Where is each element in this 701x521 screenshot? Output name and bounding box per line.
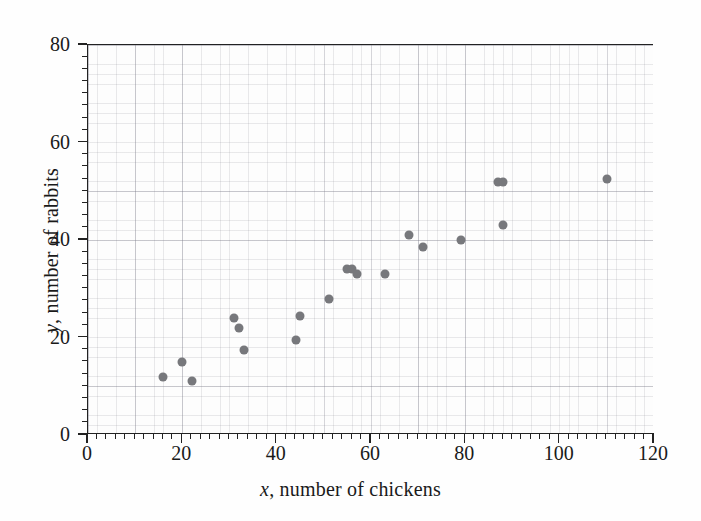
x-tick-label: 20 [171,443,191,463]
x-minor-tick [454,434,455,439]
y-minor-tick [82,214,87,215]
x-minor-tick [200,434,201,439]
x-minor-tick [96,434,97,439]
x-tick-label: 80 [454,443,474,463]
x-minor-tick [351,434,352,439]
x-minor-tick [417,434,418,439]
x-minor-tick [596,434,597,439]
data-point [352,270,361,279]
data-point [499,221,508,230]
y-minor-tick [82,104,87,105]
y-minor-tick [82,190,87,191]
x-tick-label: 60 [360,443,380,463]
x-minor-tick [502,434,503,439]
y-minor-tick [82,153,87,154]
x-minor-tick [530,434,531,439]
x-minor-tick [162,434,163,439]
x-minor-tick [605,434,606,439]
x-minor-tick [492,434,493,439]
y-axis-title: y, number of rabbits [40,96,63,406]
x-minor-tick [643,434,644,439]
x-minor-tick [634,434,635,439]
y-minor-tick [82,226,87,227]
data-point [456,236,465,245]
y-minor-tick [82,178,87,179]
y-tick-label: 0 [60,424,70,444]
y-minor-tick [82,251,87,252]
x-minor-tick [360,434,361,439]
x-minor-tick [105,434,106,439]
data-point [404,231,413,240]
x-minor-tick [153,434,154,439]
x-minor-tick [388,434,389,439]
y-major-tick [78,43,87,44]
y-minor-tick [82,165,87,166]
y-major-tick [78,336,87,337]
x-axis-title-text: , number of chickens [269,478,441,500]
y-minor-tick [82,397,87,398]
x-minor-tick [615,434,616,439]
x-tick-label: 120 [638,443,668,463]
data-point [499,177,508,186]
x-minor-tick [341,434,342,439]
y-minor-tick [82,348,87,349]
data-point [234,323,243,332]
minor-gridlines [88,45,653,434]
x-minor-tick [577,434,578,439]
x-minor-tick [407,434,408,439]
data-point [291,335,300,344]
x-minor-tick [549,434,550,439]
data-point [381,270,390,279]
y-axis-title-text: , number of rabbits [40,168,62,324]
x-minor-tick [624,434,625,439]
data-point [159,372,168,381]
y-minor-tick [82,385,87,386]
y-minor-tick [82,312,87,313]
scatter-plot-figure: 020406080100120 020406080 x, number of c… [0,0,701,521]
x-axis-title-symbol: x [260,478,269,500]
y-tick-label: 80 [50,34,70,54]
x-minor-tick [313,434,314,439]
y-minor-tick [82,324,87,325]
y-minor-tick [82,263,87,264]
data-point [324,294,333,303]
y-minor-tick [82,299,87,300]
y-major-tick [78,141,87,142]
x-axis-title: x, number of chickens [0,478,701,501]
y-minor-tick [82,129,87,130]
x-minor-tick [134,434,135,439]
x-minor-tick [247,434,248,439]
y-axis-title-symbol: y [40,324,62,333]
x-minor-tick [426,434,427,439]
x-minor-tick [115,434,116,439]
x-minor-tick [209,434,210,439]
y-minor-tick [82,80,87,81]
x-minor-tick [237,434,238,439]
y-minor-tick [82,409,87,410]
x-minor-tick [303,434,304,439]
x-minor-tick [379,434,380,439]
x-minor-tick [219,434,220,439]
x-minor-tick [171,434,172,439]
x-minor-tick [143,434,144,439]
x-minor-tick [520,434,521,439]
x-minor-tick [285,434,286,439]
y-minor-tick [82,287,87,288]
data-point [418,243,427,252]
x-tick-label: 0 [82,443,92,463]
y-minor-tick [82,360,87,361]
x-minor-tick [332,434,333,439]
y-major-tick [78,238,87,239]
x-minor-tick [436,434,437,439]
x-minor-tick [294,434,295,439]
data-point [239,345,248,354]
data-point [602,175,611,184]
y-minor-tick [82,68,87,69]
x-minor-tick [398,434,399,439]
x-minor-tick [124,434,125,439]
x-minor-tick [511,434,512,439]
y-minor-tick [82,421,87,422]
y-minor-tick [82,56,87,57]
data-point [296,311,305,320]
y-minor-tick [82,202,87,203]
